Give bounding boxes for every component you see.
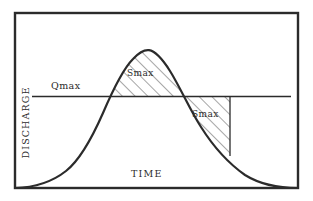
smax-falling-label: Smax — [192, 109, 219, 119]
hydrograph-figure: Qmax Smax Smax TIME DISCHARGE — [0, 0, 313, 201]
x-axis-label: TIME — [131, 168, 163, 179]
smax-rising-label: Smax — [127, 68, 154, 78]
qmax-label: Qmax — [51, 80, 80, 91]
y-axis-label: DISCHARGE — [20, 87, 31, 159]
